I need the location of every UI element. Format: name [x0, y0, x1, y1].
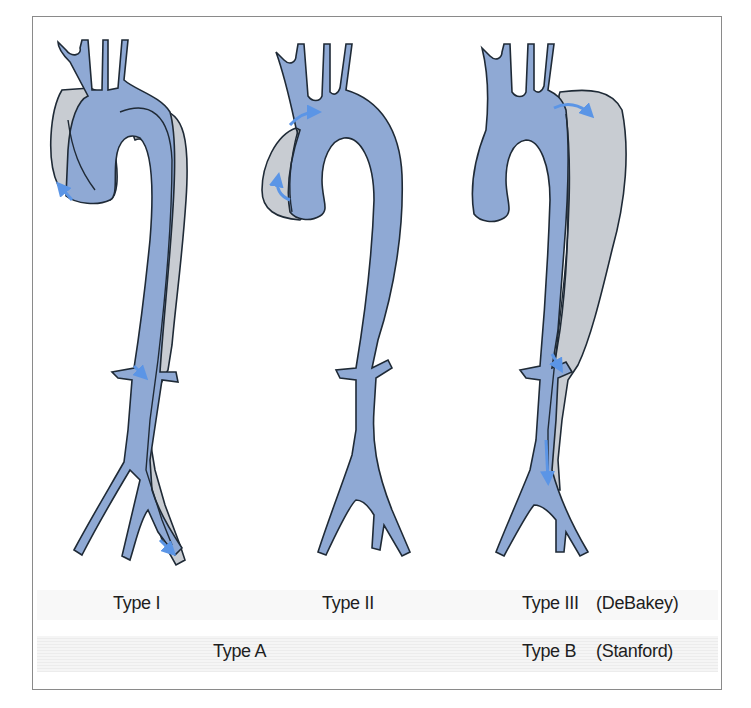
label-type-1: Type I [113, 593, 160, 614]
panel-type-3 [473, 44, 627, 556]
label-type-a: Type A [213, 641, 266, 662]
label-type-2: Type II [322, 593, 374, 614]
panel-type-1 [51, 40, 187, 565]
label-type-b: Type B [522, 641, 576, 662]
label-stanford: (Stanford) [596, 641, 673, 662]
true-lumen [58, 40, 182, 560]
label-debakey: (DeBakey) [596, 593, 678, 614]
flow-arrow [546, 440, 548, 480]
panel-type-2 [262, 44, 410, 556]
label-type-3: Type III [522, 593, 579, 614]
